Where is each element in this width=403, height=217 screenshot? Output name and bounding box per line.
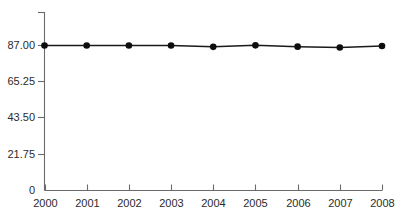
line-chart: 87.00 65.25 43.50 21.75 0 20002001200220… <box>0 0 403 217</box>
x-label-2008: 2008 <box>370 197 394 209</box>
data-point <box>126 42 133 49</box>
data-point <box>379 43 386 50</box>
y-label-2175: 21.75 <box>7 148 35 160</box>
x-label-2002: 2002 <box>117 197 141 209</box>
series-markers <box>41 42 385 51</box>
x-axis-labels: 200020012002200320042005200620072008 <box>33 197 394 209</box>
chart-canvas: 87.00 65.25 43.50 21.75 0 20002001200220… <box>0 0 403 217</box>
data-point <box>210 44 217 51</box>
y-label-4350: 43.50 <box>7 111 35 123</box>
x-label-2004: 2004 <box>201 197 225 209</box>
x-label-2000: 2000 <box>33 197 57 209</box>
x-label-2003: 2003 <box>159 197 183 209</box>
x-label-2007: 2007 <box>328 197 352 209</box>
y-axis-labels: 87.00 65.25 43.50 21.75 0 <box>7 39 35 196</box>
data-point <box>252 42 259 49</box>
x-label-2001: 2001 <box>75 197 99 209</box>
data-point <box>83 42 90 49</box>
y-tick-marks <box>38 46 45 155</box>
y-label-6525: 65.25 <box>7 75 35 87</box>
data-point <box>337 44 344 51</box>
y-label-87: 87.00 <box>7 39 35 51</box>
x-label-2005: 2005 <box>243 197 267 209</box>
y-label-0: 0 <box>29 184 35 196</box>
x-tick-marks <box>46 185 383 191</box>
data-point <box>168 42 175 49</box>
x-label-2006: 2006 <box>286 197 310 209</box>
data-point <box>41 42 48 49</box>
data-point <box>294 43 301 50</box>
